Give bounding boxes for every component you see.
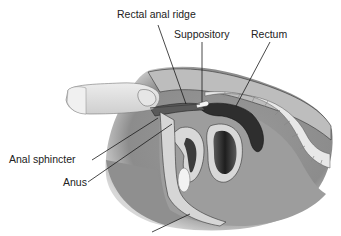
suppository-insertion-diagram: Rectal anal ridge Suppository Rectum Ana… — [0, 0, 341, 236]
anatomy-illustration — [0, 0, 341, 236]
label-suppository: Suppository — [174, 29, 229, 40]
label-rectal-anal-ridge: Rectal anal ridge — [117, 9, 196, 20]
pubic-bone — [178, 168, 190, 192]
label-anus: Anus — [63, 177, 87, 188]
label-rectum: Rectum — [251, 29, 287, 40]
label-anal-sphincter: Anal sphincter — [9, 154, 76, 165]
